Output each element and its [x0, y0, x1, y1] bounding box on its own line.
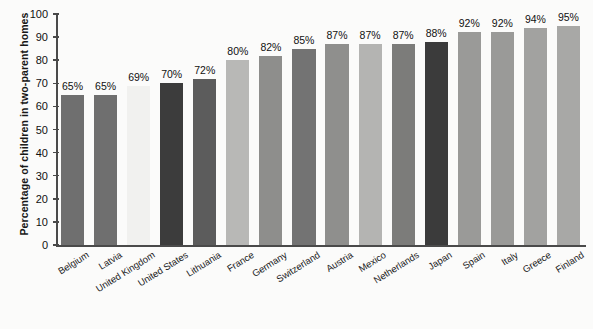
x-axis-label: Austria — [324, 249, 355, 274]
bar-value-label: 92% — [459, 17, 480, 29]
bar-value-label: 65% — [95, 80, 116, 92]
y-tick-label: 40 — [36, 147, 48, 159]
bar[interactable]: 92% — [458, 32, 481, 245]
y-tick-label: 60 — [36, 100, 48, 112]
bar[interactable]: 94% — [524, 28, 547, 245]
bar[interactable]: 87% — [359, 44, 382, 245]
x-axis-label-text: Belgium — [55, 249, 90, 277]
bar-value-label: 70% — [161, 68, 182, 80]
x-axis-label: Finland — [554, 249, 586, 275]
chart-page: Percentage of children in two-parent hom… — [0, 0, 593, 329]
y-tick-label: 20 — [36, 193, 48, 205]
bar[interactable]: 65% — [61, 95, 84, 245]
y-tick-label: 50 — [36, 124, 48, 136]
bar[interactable]: 95% — [557, 26, 580, 245]
bar[interactable]: 70% — [160, 83, 183, 245]
bar[interactable]: 80% — [226, 60, 249, 245]
bar[interactable]: 87% — [392, 44, 415, 245]
bar[interactable]: 82% — [259, 56, 282, 245]
bar-value-label: 69% — [128, 71, 149, 83]
bar[interactable]: 87% — [325, 44, 348, 245]
bar-value-label: 92% — [492, 17, 513, 29]
bar-value-label: 80% — [227, 45, 248, 57]
y-tick-label: 0 — [42, 239, 48, 251]
bar-value-label: 85% — [293, 34, 314, 46]
x-axis-label: Belgium — [55, 249, 90, 277]
bar[interactable]: 69% — [127, 86, 150, 245]
y-axis-title: Percentage of children in two-parent hom… — [18, 4, 30, 244]
x-axis-label-text: Lithuania — [184, 249, 223, 279]
y-tick-label: 90 — [36, 31, 48, 43]
plot-area: 65%65%69%70%72%80%82%85%87%87%87%88%92%9… — [56, 14, 585, 245]
x-axis-label-text: Finland — [554, 249, 586, 275]
bar-value-label: 95% — [558, 11, 579, 23]
bar-value-label: 87% — [327, 29, 348, 41]
y-tick-label: 100 — [30, 8, 48, 20]
x-axis-label-text: Italy — [500, 249, 521, 268]
bar[interactable]: 85% — [292, 49, 315, 245]
x-axis-label-text: Austria — [324, 249, 355, 274]
y-tick-label: 80 — [36, 54, 48, 66]
x-axis-label: Italy — [500, 249, 521, 268]
x-axis-label-text: Greece — [521, 249, 553, 275]
bar-value-label: 65% — [62, 80, 83, 92]
bar[interactable]: 92% — [491, 32, 514, 245]
bar-value-label: 82% — [260, 41, 281, 53]
bar[interactable]: 88% — [425, 42, 448, 245]
bar-value-label: 87% — [360, 29, 381, 41]
x-axis-label-text: Spain — [461, 249, 487, 271]
bar-value-label: 88% — [426, 27, 447, 39]
bar-value-label: 94% — [525, 13, 546, 25]
x-axis-label: Spain — [461, 249, 487, 271]
x-axis-label: Lithuania — [184, 249, 223, 279]
y-tick-label: 70 — [36, 77, 48, 89]
x-axis-label: Greece — [521, 249, 553, 275]
x-axis-line — [56, 245, 586, 247]
x-axis-label: Japan — [426, 249, 454, 272]
bar[interactable]: 65% — [94, 95, 117, 245]
y-tick-label: 10 — [36, 216, 48, 228]
y-tick-label: 30 — [36, 170, 48, 182]
bar[interactable]: 72% — [193, 79, 216, 245]
x-axis-label-text: Japan — [426, 249, 454, 272]
bar-value-label: 87% — [393, 29, 414, 41]
bar-value-label: 72% — [194, 64, 215, 76]
